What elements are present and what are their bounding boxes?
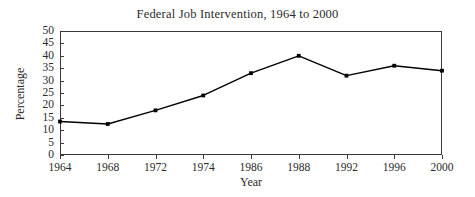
y-tick-label: 40 — [32, 50, 54, 62]
x-tick-label: 1988 — [276, 161, 322, 173]
x-tick-mark — [251, 155, 252, 159]
chart-page: Federal Job Intervention, 1964 to 2000 P… — [0, 0, 475, 197]
x-tick-mark — [394, 155, 395, 159]
x-tick-label: 1968 — [85, 161, 131, 173]
data-point-marker — [297, 54, 301, 58]
line-chart-plot — [60, 31, 442, 155]
data-series-line — [60, 56, 442, 124]
x-axis-title: Year — [60, 175, 442, 190]
x-tick-mark — [156, 155, 157, 159]
x-tick-label: 2000 — [419, 161, 465, 173]
y-axis-title: Percentage — [13, 54, 29, 134]
data-point-marker — [249, 71, 253, 75]
x-tick-mark — [442, 155, 443, 159]
data-point-marker — [106, 122, 110, 126]
y-tick-label: 35 — [32, 62, 54, 74]
data-point-markers — [58, 54, 444, 126]
data-point-marker — [392, 64, 396, 68]
x-tick-mark — [108, 155, 109, 159]
x-tick-mark — [299, 155, 300, 159]
y-tick-label: 30 — [32, 75, 54, 87]
x-tick-mark — [60, 155, 61, 159]
chart-title: Federal Job Intervention, 1964 to 2000 — [0, 7, 475, 22]
y-tick-label: 10 — [32, 124, 54, 136]
y-tick-label: 45 — [32, 37, 54, 49]
y-tick-label: 25 — [32, 87, 54, 99]
data-point-marker — [345, 74, 349, 78]
data-point-marker — [201, 94, 205, 98]
y-tick-label: 5 — [32, 137, 54, 149]
x-tick-label: 1996 — [371, 161, 417, 173]
y-tick-label: 20 — [32, 99, 54, 111]
y-tick-label: 0 — [32, 149, 54, 161]
x-tick-label: 1974 — [180, 161, 226, 173]
x-tick-mark — [347, 155, 348, 159]
data-point-marker — [154, 108, 158, 112]
x-tick-label: 1964 — [37, 161, 83, 173]
x-tick-mark — [203, 155, 204, 159]
data-point-marker — [58, 120, 62, 124]
x-tick-label: 1972 — [133, 161, 179, 173]
y-tick-label: 15 — [32, 112, 54, 124]
y-tick-label: 50 — [32, 25, 54, 37]
data-point-marker — [440, 69, 444, 73]
x-tick-label: 1992 — [324, 161, 370, 173]
x-tick-label: 1986 — [228, 161, 274, 173]
